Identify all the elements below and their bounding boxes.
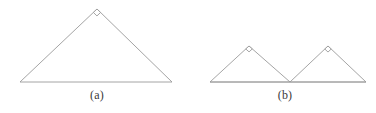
right-angle-marker-b-right-apex (325, 46, 331, 52)
subfigure-caption-a: (a) (0, 88, 194, 103)
subfigure-caption-b: (b) (194, 88, 376, 103)
right-angle-marker-a-apex (93, 9, 100, 16)
triangle-a (20, 9, 172, 82)
right-angle-marker-layer (93, 9, 331, 52)
right-angle-marker-b-left-apex (246, 46, 253, 52)
figure-panel: (a) (b) (0, 0, 376, 113)
shape-layer (20, 9, 366, 82)
